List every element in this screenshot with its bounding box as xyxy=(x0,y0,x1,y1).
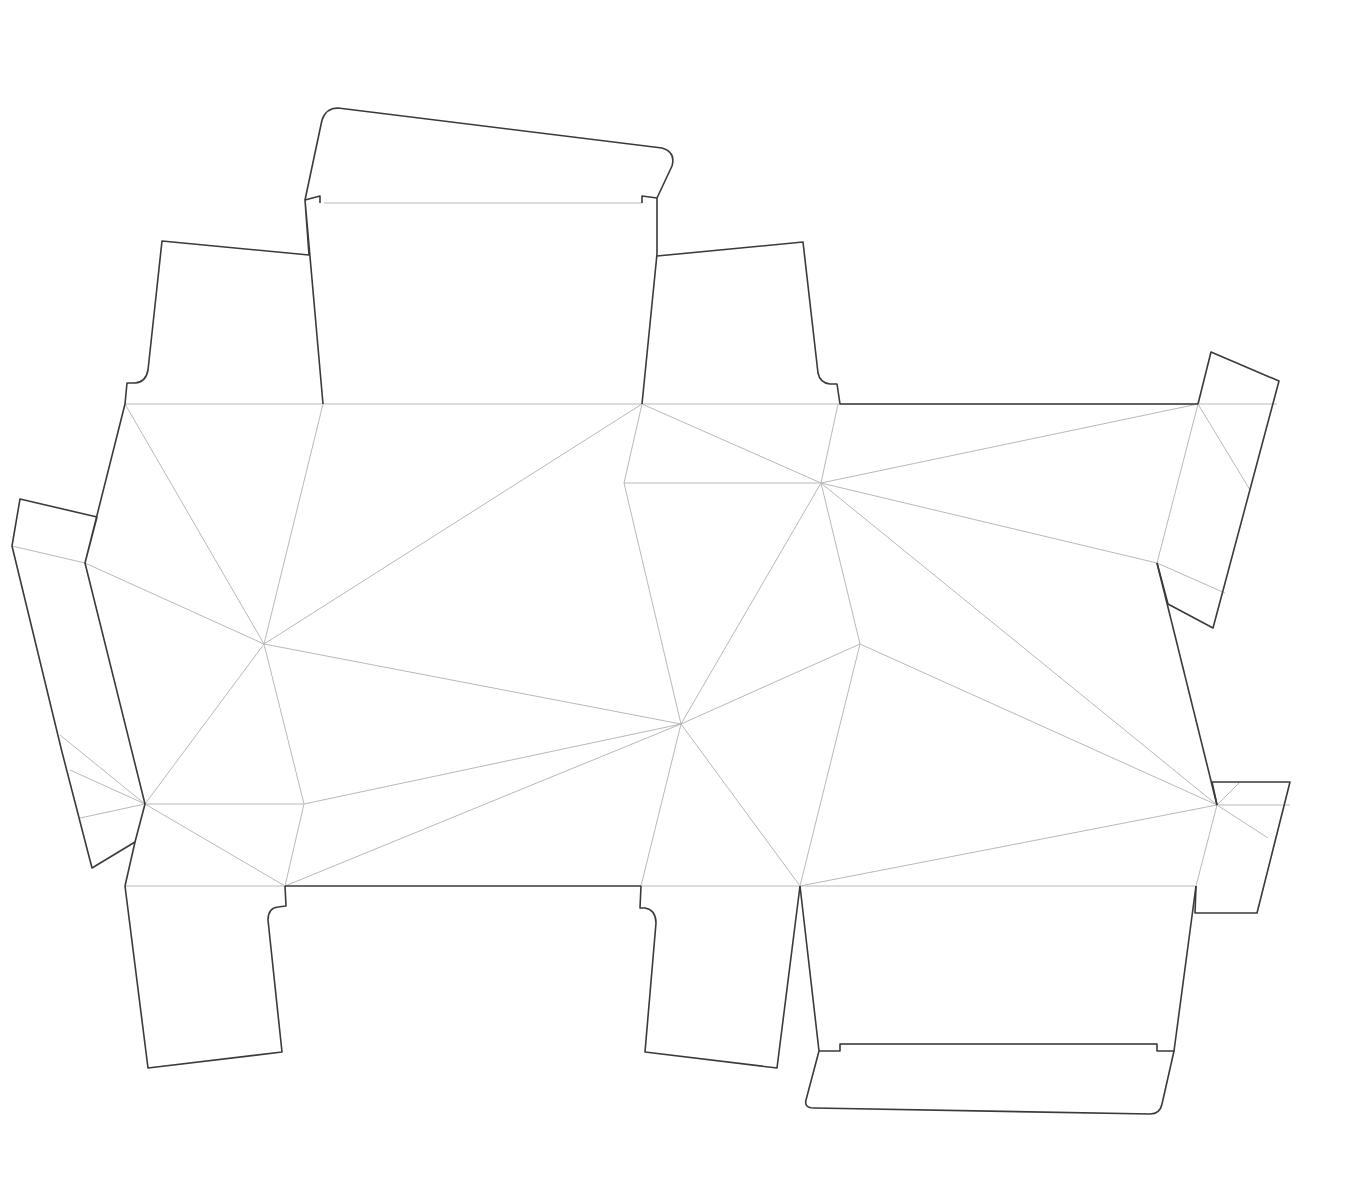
fold-line xyxy=(1217,782,1240,805)
box-die-cut-diagram xyxy=(0,0,1367,1188)
fold-line xyxy=(821,404,1198,483)
fold-line xyxy=(264,644,304,804)
fold-line xyxy=(642,404,821,483)
fold-line xyxy=(12,546,85,563)
fold-line xyxy=(641,724,681,886)
fold-line xyxy=(1157,404,1198,563)
bottom-lid-flap xyxy=(806,1051,1174,1114)
right-top-flap xyxy=(1157,352,1279,628)
fold-line xyxy=(624,483,681,724)
bottom-lid-panel xyxy=(800,886,1196,1051)
fold-line xyxy=(285,724,681,886)
fold-line xyxy=(681,724,800,886)
left-lower-edge xyxy=(12,404,135,886)
fold-line xyxy=(681,483,821,724)
fold-line xyxy=(1217,805,1268,838)
top-lid-tuck-left xyxy=(305,196,320,203)
fold-line xyxy=(145,644,264,804)
bottom-center-flap xyxy=(640,886,800,1068)
top-lid-tuck-right xyxy=(642,196,657,203)
fold-line xyxy=(800,644,860,886)
fold-line xyxy=(1157,563,1225,593)
fold-line xyxy=(1196,805,1217,886)
fold-line xyxy=(860,644,1217,805)
fold-line xyxy=(821,483,860,644)
fold-line xyxy=(285,804,304,886)
fold-line xyxy=(821,483,1157,563)
fold-line xyxy=(264,404,642,644)
fold-line xyxy=(80,804,145,818)
left-dust-flap xyxy=(125,200,323,404)
fold-line xyxy=(304,724,681,804)
fold-lines xyxy=(12,203,1290,1044)
bottom-left-flap xyxy=(125,886,286,1068)
fold-line xyxy=(264,644,681,724)
fold-line xyxy=(821,483,1217,805)
top-lid-flap xyxy=(305,108,673,404)
fold-line xyxy=(70,770,145,804)
fold-line xyxy=(125,404,264,644)
fold-line xyxy=(821,404,838,483)
fold-line xyxy=(800,805,1217,886)
fold-line xyxy=(681,644,860,724)
fold-line xyxy=(1198,404,1250,490)
fold-line xyxy=(264,404,323,644)
right-dust-flap xyxy=(657,242,1198,404)
right-side-edge xyxy=(1157,563,1217,805)
fold-line xyxy=(624,404,642,483)
cut-lines xyxy=(12,108,1290,1114)
fold-line xyxy=(85,563,264,644)
fold-line xyxy=(145,804,285,886)
